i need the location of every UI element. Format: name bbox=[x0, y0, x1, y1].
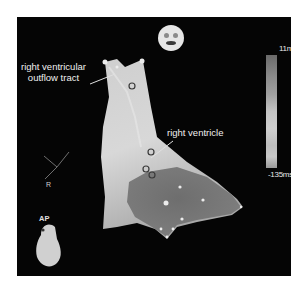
view-ap-label: AP bbox=[39, 214, 49, 223]
label-rv: right ventricle bbox=[167, 127, 224, 138]
activation-color-bar bbox=[266, 55, 277, 168]
early-activation-region bbox=[127, 167, 241, 237]
colorbar-max-label: 11ms bbox=[279, 44, 291, 53]
orientation-axes-icon bbox=[44, 152, 69, 179]
axis-r-label: R bbox=[46, 181, 51, 188]
colorbar-min-label: -135ms bbox=[268, 170, 291, 179]
label-rvot-line1: right ventricular bbox=[21, 61, 86, 72]
label-rvot-line2: outflow tract bbox=[21, 72, 86, 83]
heart-mesh bbox=[17, 17, 291, 276]
map-frame: right ventricular outflow tract right ve… bbox=[17, 17, 291, 276]
ap-heart-thumbnail bbox=[36, 225, 61, 267]
label-rvot: right ventricular outflow tract bbox=[21, 61, 86, 83]
